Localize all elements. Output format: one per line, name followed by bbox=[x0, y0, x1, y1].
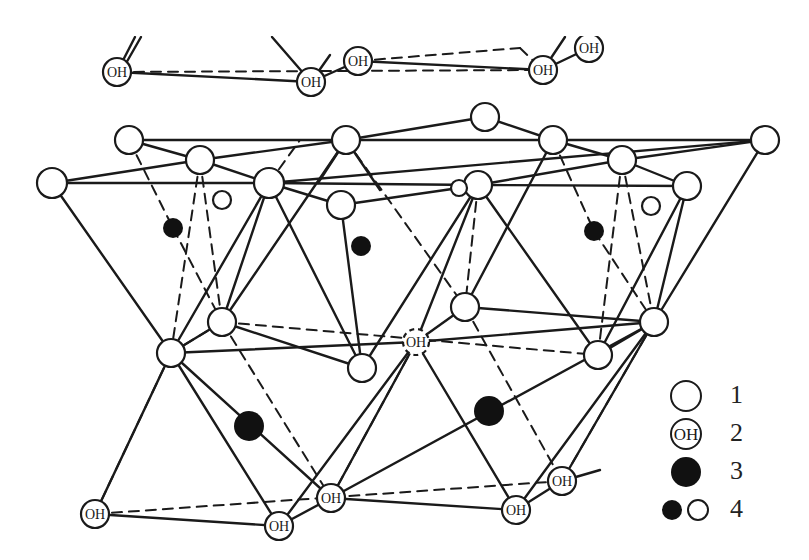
legend-label: 2 bbox=[730, 418, 743, 448]
oh-label: OH bbox=[579, 41, 599, 56]
small-filled-cation bbox=[584, 221, 604, 241]
oxygen-atom bbox=[608, 146, 636, 174]
oxygen-atom bbox=[471, 103, 499, 131]
oh-label: OH bbox=[674, 425, 699, 444]
oxygen-atom bbox=[115, 126, 143, 154]
oxygen-atom bbox=[327, 191, 355, 219]
small-filled-cation bbox=[163, 218, 183, 238]
oxygen-atom bbox=[751, 126, 779, 154]
oxygen-atom bbox=[348, 354, 376, 382]
small-open-cation bbox=[213, 191, 231, 209]
oxygen-atom bbox=[451, 180, 467, 196]
oxygen-atom bbox=[451, 293, 479, 321]
oxygen-atom bbox=[208, 308, 236, 336]
oh-label: OH bbox=[533, 63, 553, 78]
oxygen-atom bbox=[37, 168, 67, 198]
oh-label: OH bbox=[269, 519, 289, 534]
large-filled-cation bbox=[474, 396, 504, 426]
oxygen-atom bbox=[254, 168, 284, 198]
oxygen-atom bbox=[673, 172, 701, 200]
oh-circle-icon: OH bbox=[660, 416, 720, 452]
oxygen-atom bbox=[186, 146, 214, 174]
legend-label: 1 bbox=[730, 380, 743, 410]
legend-item-3: 3 bbox=[660, 454, 800, 490]
oxygen-atom bbox=[464, 171, 492, 199]
oh-label: OH bbox=[406, 335, 426, 350]
oh-label: OH bbox=[301, 75, 321, 90]
oh-label: OH bbox=[85, 507, 105, 522]
open-circle-icon bbox=[660, 378, 720, 414]
solid-bond bbox=[478, 185, 687, 186]
legend-label: 4 bbox=[730, 494, 743, 524]
oxygen-atom bbox=[332, 126, 360, 154]
top-crop-mask bbox=[0, 0, 809, 36]
oh-label: OH bbox=[506, 503, 526, 518]
oxygen-atom bbox=[640, 308, 668, 336]
oh-label: OH bbox=[107, 65, 127, 80]
large-filled-cation bbox=[234, 411, 264, 441]
filled-circle-icon bbox=[660, 454, 720, 490]
oxygen-atom bbox=[157, 339, 185, 367]
small-filled-and-open-circle-icon bbox=[660, 492, 722, 528]
small-open-cation bbox=[642, 197, 660, 215]
oxygen-atom bbox=[539, 126, 567, 154]
small-filled-cation bbox=[351, 236, 371, 256]
oh-label: OH bbox=[321, 491, 341, 506]
legend-item-4: 4 bbox=[660, 492, 800, 528]
oh-label: OH bbox=[552, 474, 572, 489]
oxygen-atom bbox=[584, 341, 612, 369]
legend-label: 3 bbox=[730, 456, 743, 486]
oh-label: OH bbox=[348, 54, 368, 69]
legend-item-2: OH 2 bbox=[660, 416, 800, 452]
legend-item-1: 1 bbox=[660, 378, 800, 414]
